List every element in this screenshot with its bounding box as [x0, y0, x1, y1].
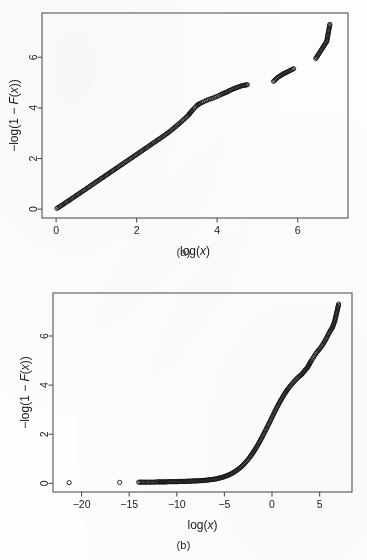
x-tick-label: −15 [120, 498, 138, 510]
chart-panel-b: −20−15−10−5050246log(x)−log(1 − F(x)) [0, 272, 367, 560]
plot-frame [53, 293, 352, 492]
x-tick-label: −20 [73, 498, 91, 510]
x-tick-label: 5 [317, 498, 323, 510]
data-points-dense [187, 24, 332, 117]
x-tick-label: 2 [134, 224, 140, 236]
data-points [55, 22, 332, 210]
x-tick-label: 0 [53, 224, 59, 236]
panel-a-caption: (a) [0, 246, 367, 258]
x-axis: −20−15−10−505 [73, 492, 323, 510]
x-tick-label: 4 [214, 224, 220, 236]
figure-container: 02460246log(x)−log(1 − F(x)) (a) −20−15−… [0, 0, 367, 560]
data-points-dense [138, 303, 341, 484]
data-points [67, 302, 341, 485]
scatter-plot-a: 02460246log(x)−log(1 − F(x)) [0, 0, 367, 272]
y-tick-label: 6 [38, 333, 50, 339]
y-axis: 0246 [38, 333, 53, 486]
y-tick-label: 4 [27, 105, 39, 111]
x-tick-label: 6 [295, 224, 301, 236]
y-tick-label: 0 [38, 480, 50, 486]
y-tick-label: 4 [38, 382, 50, 388]
x-tick-label: −5 [218, 498, 230, 510]
x-axis-label: log(x) [187, 518, 217, 532]
y-axis-label: −log(1 − F(x)) [7, 79, 21, 152]
y-tick-label: 6 [27, 54, 39, 60]
panel-b-caption: (b) [0, 539, 367, 551]
x-tick-label: −10 [168, 498, 186, 510]
y-tick-label: 2 [27, 155, 39, 161]
y-tick-label: 0 [27, 206, 39, 212]
chart-panel-a: 02460246log(x)−log(1 − F(x)) (a) [0, 0, 367, 272]
scatter-plot-b: −20−15−10−5050246log(x)−log(1 − F(x)) [0, 272, 367, 560]
data-point [118, 480, 122, 484]
y-tick-label: 2 [38, 431, 50, 437]
data-point [67, 481, 71, 485]
x-tick-label: 0 [269, 498, 275, 510]
y-axis-label: −log(1 − F(x)) [18, 356, 32, 429]
y-axis: 0246 [27, 54, 42, 212]
x-axis: 0246 [53, 218, 301, 236]
